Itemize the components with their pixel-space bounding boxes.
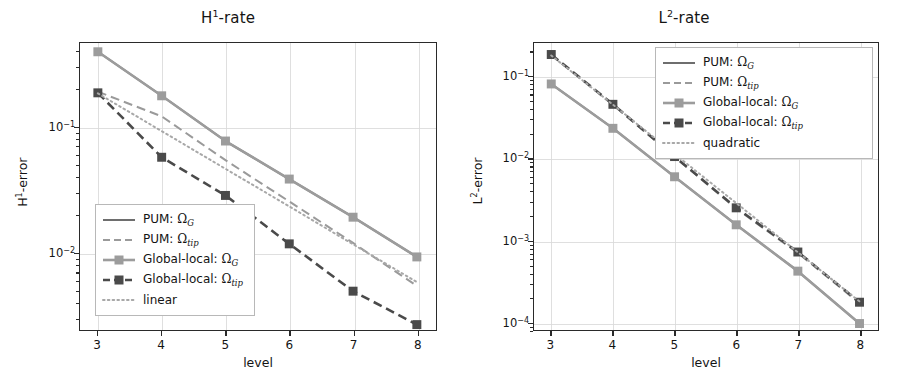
y-minor-tick: [530, 216, 533, 217]
y-minor-tick: [530, 89, 533, 90]
y-minor-tick: [76, 281, 79, 282]
y-minor-tick: [76, 89, 79, 90]
legend-item-pum-omega-tip[interactable]: PUM: Ωtip: [102, 230, 247, 250]
y-minor-tick: [530, 80, 533, 81]
x-tick-mark: [612, 331, 613, 336]
y-minor-tick: [530, 84, 533, 85]
y-minor-tick: [530, 254, 533, 255]
y-axis-label-h1-base: H: [15, 197, 30, 206]
data-point-marker: [412, 252, 421, 261]
y-tick-label: 10−3: [489, 233, 529, 248]
data-point-marker: [93, 47, 102, 56]
y-minor-tick: [530, 162, 533, 163]
legend-label-global-local-omega-g: Global-local: ΩG: [703, 96, 798, 111]
data-point-marker: [221, 137, 230, 146]
y-minor-tick: [530, 266, 533, 267]
y-minor-tick: [76, 319, 79, 320]
y-minor-tick: [530, 109, 533, 110]
chart-title-h1: H1-rate: [0, 8, 456, 27]
data-point-marker: [221, 191, 230, 200]
legend-swatch-pum-omega-g: [102, 213, 136, 227]
x-tick-label: 6: [286, 338, 294, 352]
figure-convergence-rates: H1-rate H1-error level 34567810−210−1 PU…: [0, 0, 912, 378]
y-minor-tick: [76, 177, 79, 178]
y-minor-tick: [530, 101, 533, 102]
y-axis-label-l2-exponent: 2: [470, 192, 479, 197]
y-axis-label-l2-base: L: [470, 197, 485, 204]
legend-item-global-local-omega-g[interactable]: Global-local: ΩG: [662, 93, 865, 113]
data-point-marker: [285, 239, 294, 248]
data-point-marker: [608, 124, 617, 133]
y-minor-tick: [530, 191, 533, 192]
y-minor-tick: [76, 265, 79, 266]
data-point-marker: [412, 320, 421, 329]
data-point-marker: [670, 172, 679, 181]
x-tick-mark: [736, 331, 737, 336]
x-tick-mark: [674, 331, 675, 336]
y-minor-tick: [530, 327, 533, 328]
y-minor-tick: [530, 183, 533, 184]
y-axis-label-l2: L2-error: [470, 158, 485, 205]
legend-item-pum-omega-g[interactable]: PUM: ΩG: [662, 53, 865, 73]
y-minor-tick: [530, 166, 533, 167]
y-minor-tick: [530, 245, 533, 246]
x-tick-mark: [97, 331, 98, 336]
y-tick-label: 10−4: [489, 316, 529, 331]
legend-label-global-local-omega-g: Global-local: ΩG: [143, 253, 238, 268]
legend-label-pum-omega-tip: PUM: Ωtip: [143, 233, 199, 248]
y-minor-tick: [76, 193, 79, 194]
y-tick-label: 10−1: [35, 119, 75, 134]
legend-swatch-global-local-omega-g: [102, 253, 136, 267]
x-tick-label: 3: [547, 338, 555, 352]
legend-swatch-global-local-omega-g: [662, 96, 696, 110]
chart-title-l2-tail: -rate: [673, 9, 709, 27]
legend-item-global-local-omega-tip[interactable]: Global-local: Ωtip: [102, 270, 247, 290]
data-point-marker: [157, 91, 166, 100]
x-tick-label: 7: [350, 338, 358, 352]
data-point-marker: [157, 153, 166, 162]
x-tick-mark: [418, 331, 419, 336]
y-minor-tick: [76, 139, 79, 140]
legend-item-global-local-omega-tip[interactable]: Global-local: Ωtip: [662, 113, 865, 133]
legend-item-quadratic-reference[interactable]: quadratic: [662, 133, 865, 153]
legend-item-global-local-omega-g[interactable]: Global-local: ΩG: [102, 250, 247, 270]
legend-item-pum-omega-g[interactable]: PUM: ΩG: [102, 210, 247, 230]
legend-label-pum-omega-g: PUM: ΩG: [143, 213, 194, 228]
y-minor-tick: [76, 215, 79, 216]
y-minor-tick: [530, 249, 533, 250]
legend-swatch-quadratic-reference: [662, 136, 696, 150]
x-tick-label: 5: [221, 338, 229, 352]
y-minor-tick: [530, 51, 533, 52]
legend-label-pum-omega-tip: PUM: Ωtip: [703, 76, 759, 91]
y-minor-tick: [530, 202, 533, 203]
x-axis-label-right: level: [533, 355, 879, 370]
panel-h1-rate: H1-rate H1-error level 34567810−210−1 PU…: [0, 0, 456, 378]
chart-title-h1-base: H: [201, 9, 212, 27]
y-tick-label: 10−1: [489, 69, 529, 84]
y-minor-tick: [530, 259, 533, 260]
y-minor-tick: [76, 133, 79, 134]
y-minor-tick: [530, 284, 533, 285]
legend-swatch-pum-omega-tip: [102, 233, 136, 247]
chart-title-h1-tail: -rate: [219, 9, 255, 27]
y-axis-label-h1-exponent: 1: [15, 192, 24, 197]
y-minor-tick: [76, 272, 79, 273]
y-minor-tick: [76, 165, 79, 166]
chart-title-l2-base: L: [658, 9, 666, 27]
legend-item-linear-reference[interactable]: linear: [102, 290, 247, 310]
x-tick-mark: [161, 331, 162, 336]
legend-swatch-global-local-omega-tip: [662, 116, 696, 130]
y-minor-tick: [530, 177, 533, 178]
legend-item-pum-omega-tip[interactable]: PUM: Ωtip: [662, 73, 865, 93]
y-minor-tick: [76, 303, 79, 304]
data-point-marker: [855, 319, 864, 328]
legend-label-global-local-omega-tip: Global-local: Ωtip: [703, 116, 803, 131]
legend-swatch-global-local-omega-tip: [102, 273, 136, 287]
legend-label-linear-reference: linear: [143, 294, 177, 306]
y-minor-tick: [530, 134, 533, 135]
y-tick-label: 10−2: [489, 151, 529, 166]
data-point-marker: [547, 79, 556, 88]
y-minor-tick: [530, 119, 533, 120]
legend-label-quadratic-reference: quadratic: [703, 137, 760, 149]
y-minor-tick: [76, 259, 79, 260]
